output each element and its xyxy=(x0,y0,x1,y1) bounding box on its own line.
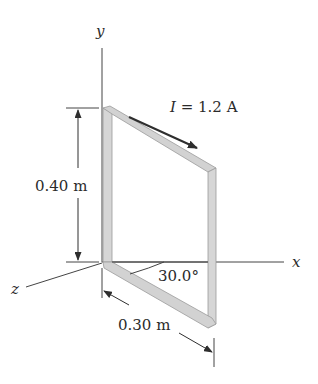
figure: y x z I = 1.2 A 0.40 m 0.30 m 30.0° xyxy=(0,0,318,384)
current-label: I = 1.2 A xyxy=(169,98,238,116)
angle-label: 30.0° xyxy=(158,267,199,285)
x-axis-label: x xyxy=(292,253,301,271)
current-value: = 1.2 A xyxy=(181,98,238,116)
current-loop-diagram: y x z I = 1.2 A 0.40 m 0.30 m 30.0° xyxy=(0,0,318,384)
y-axis-label: y xyxy=(95,22,105,40)
z-axis-label: z xyxy=(10,280,19,298)
loop-right-side xyxy=(208,168,216,328)
current-symbol: I xyxy=(169,98,177,116)
loop-left-side xyxy=(103,108,112,262)
height-label: 0.40 m xyxy=(35,177,87,195)
width-label: 0.30 m xyxy=(118,316,170,334)
z-axis xyxy=(26,263,102,287)
width-arrow-left xyxy=(104,291,129,305)
width-arrow-right xyxy=(179,333,212,352)
